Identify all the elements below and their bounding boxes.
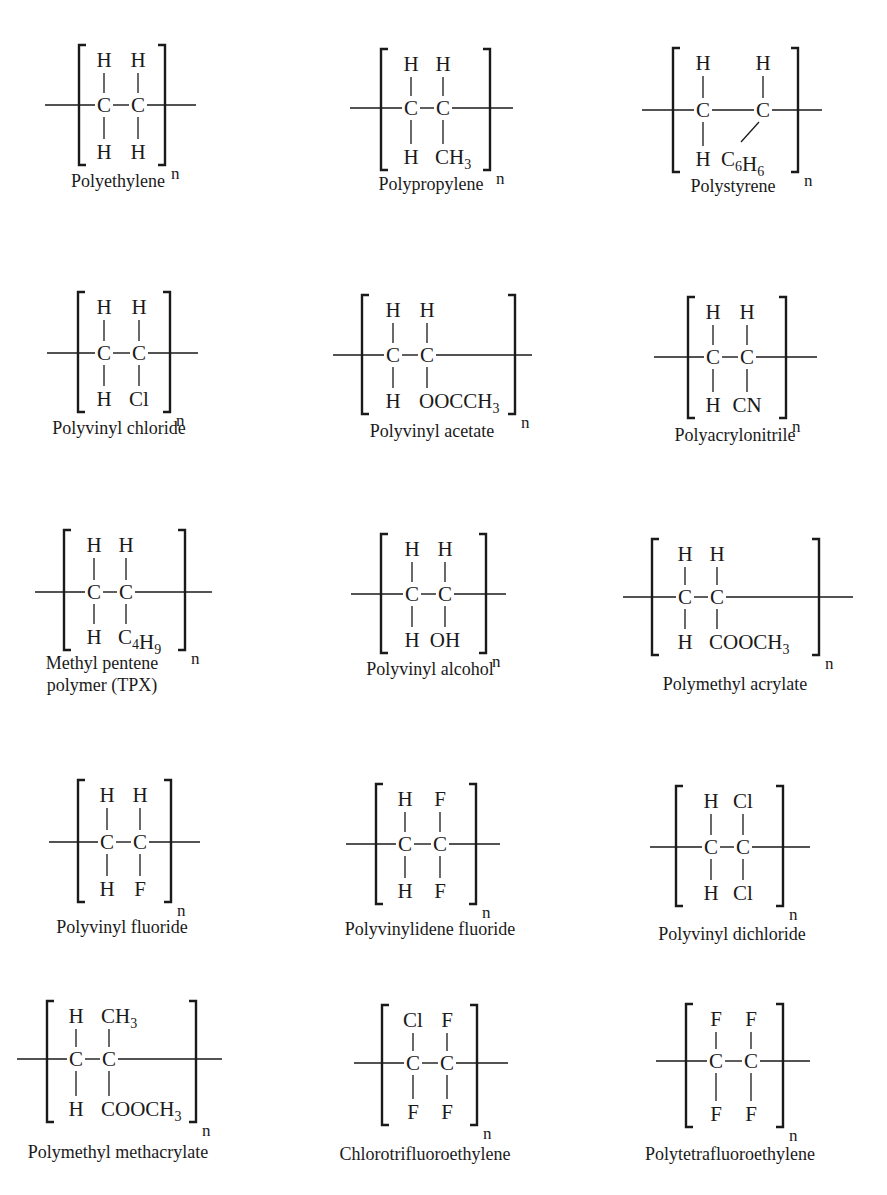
carbon-atom-2: C xyxy=(740,345,754,369)
carbon-atom-1: C xyxy=(678,585,692,609)
substituent-bottom-2: CH3 xyxy=(435,145,471,172)
carbon-atom-2: C xyxy=(133,830,147,854)
left-bracket xyxy=(381,49,388,170)
substituent-top-2: H xyxy=(131,295,146,319)
substituent-bottom-1: F xyxy=(407,1100,419,1124)
substituent-top-1: F xyxy=(710,1007,722,1031)
polymer-structure-polyvinyl-chloride: nCCHHHClPolyvinyl chloride xyxy=(47,292,198,438)
substituent-bottom-1: H xyxy=(695,147,710,171)
substituent-bottom-1: H xyxy=(677,630,692,654)
polymer-name-label: Chlorotrifluoroethylene xyxy=(340,1144,511,1164)
left-bracket xyxy=(64,530,71,650)
carbon-atom-2: C xyxy=(131,93,145,117)
polymer-name-label: Polytetrafluoroethylene xyxy=(645,1144,815,1164)
carbon-atom-1: C xyxy=(87,580,101,604)
polymer-name-label: Polyvinyl chloride xyxy=(52,418,186,438)
polymer-structure-polyvinyl-fluoride: nCCHHHFPolyvinyl fluoride xyxy=(49,780,200,937)
right-bracket xyxy=(189,1001,196,1122)
right-bracket xyxy=(776,786,783,906)
substituent-top-2: H xyxy=(437,537,452,561)
substituent-bottom-2: Cl xyxy=(733,881,753,905)
left-bracket xyxy=(676,786,683,906)
substituent-top-1: H xyxy=(86,533,101,557)
substituent-top-2: F xyxy=(745,1007,757,1031)
carbon-atom-2: C xyxy=(420,343,434,367)
substituent-bottom-1: H xyxy=(703,881,718,905)
right-bracket xyxy=(483,49,490,170)
left-bracket xyxy=(78,292,85,412)
substituent-bottom-1: H xyxy=(86,625,101,649)
structures-svg: nCCHHHHPolyethylenenCCHHHCH3Polypropylen… xyxy=(0,0,887,1195)
substituent-top-1: H xyxy=(99,783,114,807)
carbon-atom-1: C xyxy=(405,582,419,606)
substituent-bottom-2: CN xyxy=(732,393,761,417)
carbon-atom-2: C xyxy=(710,585,724,609)
polymer-structure-polypropylene: nCCHHHCH3Polypropylene xyxy=(350,49,513,194)
substituent-top-1: H xyxy=(385,298,400,322)
carbon-atom-1: C xyxy=(704,835,718,859)
substituent-top-2: CH3 xyxy=(101,1004,137,1031)
carbon-atom-2: C xyxy=(736,835,750,859)
left-bracket xyxy=(47,1001,54,1122)
carbon-atom-1: C xyxy=(97,341,111,365)
repeat-subscript-n: n xyxy=(521,413,530,432)
substituent-bottom-2: H xyxy=(130,140,145,164)
polymer-name-label: Polystyrene xyxy=(691,176,776,196)
substituent-top-1: H xyxy=(705,300,720,324)
substituent-top-1: H xyxy=(403,52,418,76)
carbon-atom-1: C xyxy=(386,343,400,367)
right-bracket xyxy=(776,1004,783,1127)
polymer-name-label: Polyvinylidene fluoride xyxy=(345,919,515,939)
polymer-name-label: Polyethylene xyxy=(71,171,165,191)
substituent-top-2: H xyxy=(709,542,724,566)
polymer-structures-figure: nCCHHHHPolyethylenenCCHHHCH3Polypropylen… xyxy=(0,0,887,1195)
polymer-structure-chlorotrifluoroethylene: nCCClFFFChlorotrifluoroethylene xyxy=(340,1005,511,1164)
substituent-top-1: H xyxy=(703,789,718,813)
substituent-bottom-2: COOCH3 xyxy=(101,1097,182,1124)
substituent-top-2: H xyxy=(419,298,434,322)
substituent-top-2: H xyxy=(755,51,770,75)
carbon-atom-1: C xyxy=(398,832,412,856)
substituent-bottom-1: H xyxy=(96,387,111,411)
polymer-structure-polymethyl-acrylate: nCCHHHCOOCH3Polymethyl acrylate xyxy=(623,539,853,694)
polymer-name-label: Polyvinyl dichloride xyxy=(658,924,806,944)
polymer-name-label: Polymethyl acrylate xyxy=(663,674,807,694)
polymer-name-label: Methyl pentene xyxy=(46,653,158,673)
polymer-structure-polyethylene: nCCHHHHPolyethylene xyxy=(45,45,196,191)
substituent-bottom-1: H xyxy=(705,393,720,417)
substituent-bottom-2: F xyxy=(441,1100,453,1124)
substituent-top-2: Cl xyxy=(733,789,753,813)
polymer-name-label: Polyvinyl alcohol xyxy=(366,659,494,679)
substituent-top-2: F xyxy=(441,1008,453,1032)
repeat-subscript-n: n xyxy=(789,905,798,924)
repeat-subscript-n: n xyxy=(496,169,505,188)
repeat-subscript-n: n xyxy=(825,654,834,673)
substituent-top-1: H xyxy=(677,542,692,566)
substituent-top-1: H xyxy=(96,295,111,319)
left-bracket xyxy=(78,780,85,902)
carbon-atom-1: C xyxy=(404,96,418,120)
carbon-atom-1: C xyxy=(709,1049,723,1073)
polymer-structure-polyvinyl-acetate: nCCHHHOOCCH3Polyvinyl acetate xyxy=(333,295,532,441)
carbon-atom-1: C xyxy=(706,345,720,369)
polymer-structure-polystyrene: nCCHHHC6H6Polystyrene xyxy=(642,48,822,196)
right-bracket xyxy=(164,780,171,902)
substituent-top-2: F xyxy=(434,787,446,811)
carbon-atom-2: C xyxy=(102,1047,116,1071)
carbon-atom-2: C xyxy=(433,832,447,856)
carbon-atom-1: C xyxy=(696,98,710,122)
substituent-top-2: H xyxy=(130,48,145,72)
polymer-name-label: Polyvinyl fluoride xyxy=(56,917,188,937)
left-bracket xyxy=(382,1005,389,1125)
right-bracket xyxy=(163,292,170,412)
substituent-bottom-1: H xyxy=(99,877,114,901)
substituent-top-1: H xyxy=(68,1004,83,1028)
substituent-bottom-2: OOCCH3 xyxy=(419,389,500,416)
substituent-top-1: H xyxy=(96,48,111,72)
substituent-top-2: H xyxy=(132,783,147,807)
repeat-subscript-n: n xyxy=(789,1126,798,1145)
substituent-bottom-1: H xyxy=(403,145,418,169)
substituent-top-1: H xyxy=(397,787,412,811)
carbon-atom-2: C xyxy=(438,582,452,606)
substituent-bottom-1: H xyxy=(404,628,419,652)
